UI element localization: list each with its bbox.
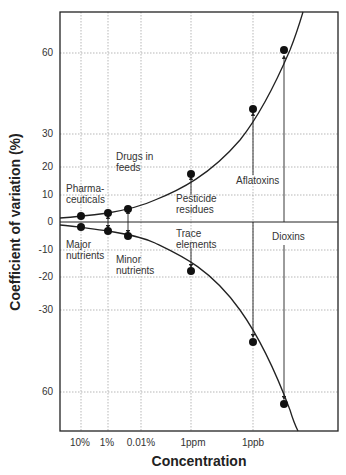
svg-text:nutrients: nutrients — [66, 250, 104, 261]
svg-text:Major: Major — [66, 239, 92, 250]
y-axis-label: Coefficient of variation (%) — [7, 133, 23, 310]
svg-text:-30: -30 — [39, 304, 54, 315]
svg-text:feeds: feeds — [116, 162, 140, 173]
svg-text:-20: -20 — [39, 271, 54, 282]
x-tick-labels: 10% 1% 0.01% 1ppm 1ppb — [70, 437, 265, 448]
svg-text:Dioxins: Dioxins — [272, 231, 305, 242]
data-points — [77, 46, 288, 408]
svg-text:10%: 10% — [70, 437, 90, 448]
svg-text:Minor: Minor — [116, 254, 142, 265]
svg-text:elements: elements — [176, 239, 217, 250]
svg-text:20: 20 — [42, 161, 54, 172]
svg-text:30: 30 — [42, 128, 54, 139]
svg-text:0: 0 — [47, 216, 53, 227]
svg-text:1ppm: 1ppm — [180, 437, 205, 448]
svg-text:60: 60 — [42, 47, 54, 58]
svg-text:1ppb: 1ppb — [242, 437, 265, 448]
svg-text:Drugs in: Drugs in — [116, 151, 153, 162]
svg-text:60: 60 — [42, 386, 54, 397]
svg-text:residues: residues — [176, 204, 214, 215]
svg-text:-10: -10 — [39, 244, 54, 255]
svg-text:1%: 1% — [100, 437, 115, 448]
svg-text:Trace: Trace — [176, 228, 202, 239]
svg-text:10: 10 — [42, 189, 54, 200]
svg-text:Aflatoxins: Aflatoxins — [236, 175, 279, 186]
svg-text:Pharma-: Pharma- — [66, 183, 104, 194]
y-tick-labels: 60 30 20 10 0 -10 -20 -30 60 — [39, 47, 54, 397]
svg-text:0.01%: 0.01% — [127, 437, 155, 448]
svg-text:ceuticals: ceuticals — [66, 194, 105, 205]
svg-text:Pesticide: Pesticide — [176, 193, 217, 204]
horwitz-trumpet-chart: 60 30 20 10 0 -10 -20 -30 60 10% 1% 0.01… — [0, 0, 346, 475]
svg-text:nutrients: nutrients — [116, 265, 154, 276]
x-axis-label: Concentration — [152, 453, 247, 469]
